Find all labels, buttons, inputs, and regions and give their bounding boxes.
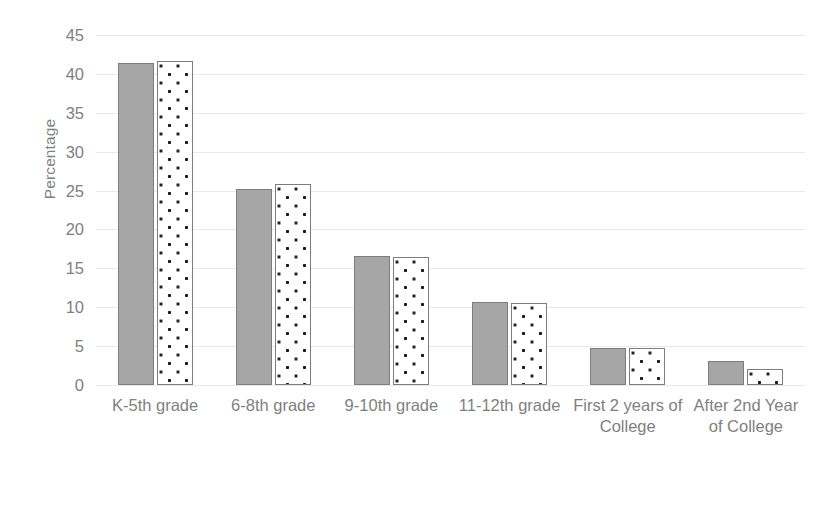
bar	[747, 369, 783, 385]
x-axis-category-label: First 2 years of College	[569, 395, 687, 437]
y-axis-tick-label: 20	[24, 221, 84, 238]
y-axis-tick-label: 15	[24, 260, 84, 277]
bar	[236, 189, 272, 385]
x-axis-category-label: After 2nd Year of College	[687, 395, 805, 437]
bar	[354, 256, 390, 385]
bar	[472, 302, 508, 385]
bar	[157, 61, 193, 385]
bar-group	[332, 35, 450, 385]
bar-group	[569, 35, 687, 385]
bar	[275, 184, 311, 385]
bars-layer	[96, 35, 805, 385]
y-axis-tick-label: 0	[24, 377, 84, 394]
x-axis-category-label: 6-8th grade	[214, 395, 332, 416]
bar	[629, 348, 665, 385]
bar-group	[96, 35, 214, 385]
bar-group	[687, 35, 805, 385]
y-axis-tick-label: 40	[24, 66, 84, 83]
bar-chart: Percentage 454035302520151050 K-5th grad…	[0, 0, 823, 508]
bar	[590, 348, 626, 385]
bar-group	[451, 35, 569, 385]
y-axis-tick-label: 45	[24, 27, 84, 44]
y-axis-tick-label: 10	[24, 299, 84, 316]
bar	[511, 303, 547, 385]
x-axis-category-label: 9-10th grade	[332, 395, 450, 416]
bar	[393, 257, 429, 385]
bar	[708, 361, 744, 385]
y-axis-tick-label: 5	[24, 338, 84, 355]
bar	[118, 63, 154, 385]
x-axis-category-label: K-5th grade	[96, 395, 214, 416]
y-axis-tick-label: 25	[24, 182, 84, 199]
y-axis-tick-label: 35	[24, 105, 84, 122]
x-axis-category-labels: K-5th grade6-8th grade9-10th grade11-12t…	[96, 395, 805, 495]
bar-group	[214, 35, 332, 385]
x-axis-category-label: 11-12th grade	[451, 395, 569, 416]
gridline	[96, 385, 805, 386]
y-axis-tick-labels: 454035302520151050	[20, 35, 84, 385]
y-axis-tick-label: 30	[24, 143, 84, 160]
